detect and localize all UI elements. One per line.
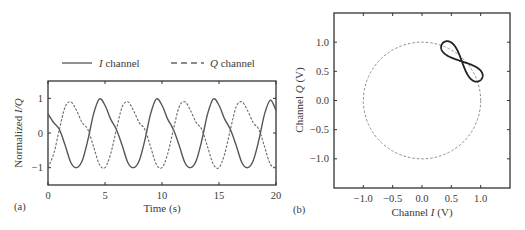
series-i-channel — [48, 99, 276, 168]
x-tick-label: 15 — [214, 190, 225, 201]
legend-label-q-channel: Q channel — [210, 57, 255, 69]
panel-label-a: (a) — [14, 201, 26, 213]
plot-frame-b — [334, 13, 510, 188]
x-tick-label: −1.0 — [354, 193, 373, 204]
y-tick-label: 0 — [38, 128, 43, 139]
x-tick-label: 5 — [102, 190, 107, 201]
y-axis-label-b: Channel Q (V) — [293, 67, 306, 133]
series-unit-circle — [363, 42, 480, 159]
legend: I channel Q channel — [62, 57, 255, 69]
y-axis-label-a: Normalized I/Q — [12, 98, 24, 167]
y-tick-label: −1.0 — [310, 153, 329, 164]
x-tick-label: 10 — [157, 190, 168, 201]
x-tick-label: 0 — [45, 190, 50, 201]
x-tick-label: −0.5 — [383, 193, 402, 204]
legend-label-i-channel: I channel — [98, 57, 140, 69]
y-tick-label: 0.5 — [316, 66, 329, 77]
x-axis-label-a: Time (s) — [143, 202, 181, 215]
plot-frame-a — [48, 81, 276, 185]
panel-b: −1.0−0.50.00.51.0 −1.0−0.50.00.51.0 Chan… — [293, 13, 510, 219]
panel-label-b: (b) — [293, 204, 306, 216]
x-tick-label: 1.0 — [474, 193, 487, 204]
x-tick-label: 0.5 — [445, 193, 458, 204]
figure: I channel Q channel 05101520 −101 Time (… — [0, 0, 525, 230]
y-tick-label: 1 — [38, 93, 43, 104]
x-axis-label-b: Channel I (V) — [391, 206, 452, 219]
y-tick-label: 0.0 — [316, 95, 329, 106]
y-tick-label: −1 — [32, 162, 43, 173]
series-q-channel — [48, 102, 276, 169]
panel-a: I channel Q channel 05101520 −101 Time (… — [12, 57, 281, 215]
x-tick-label: 0.0 — [415, 193, 428, 204]
x-tick-label: 20 — [271, 190, 282, 201]
series-iq-trajectory — [441, 41, 483, 81]
y-tick-label: −0.5 — [310, 124, 329, 135]
y-tick-label: 1.0 — [316, 37, 329, 48]
